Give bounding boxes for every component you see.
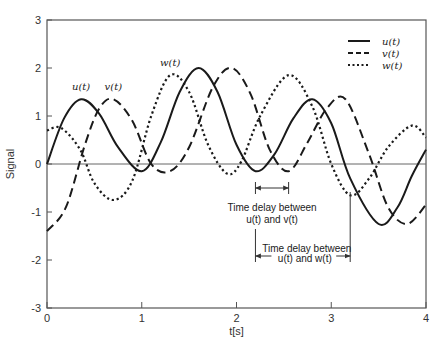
x-tick-label: 4: [423, 312, 429, 324]
y-tick-label: -2: [31, 254, 41, 266]
y-tick-label: 1: [35, 110, 41, 122]
x-tick-label: 2: [233, 312, 239, 324]
curve-label: w(t): [160, 57, 180, 68]
x-axis-label: t[s]: [229, 325, 244, 337]
y-tick-label: -1: [31, 206, 41, 218]
chart: -3-2-1012301234t[s]Signal u(t)v(t)w(t) T…: [0, 0, 445, 345]
legend-label: v(t): [382, 48, 400, 59]
y-tick-label: 0: [35, 158, 41, 170]
annotation-text: Time delay between: [227, 202, 316, 213]
annotation-text: u(t) and v(t): [246, 214, 298, 225]
curve-label: u(t): [72, 81, 90, 92]
axes: -3-2-1012301234t[s]Signal: [4, 14, 429, 337]
x-tick-label: 1: [139, 312, 145, 324]
y-tick-label: 2: [35, 62, 41, 74]
series-wt: [47, 74, 426, 200]
legend: u(t)v(t)w(t): [348, 36, 402, 71]
x-tick-label: 3: [328, 312, 334, 324]
legend-label: u(t): [382, 36, 400, 47]
y-tick-label: 3: [35, 14, 41, 26]
curve-label: v(t): [105, 81, 123, 92]
x-tick-label: 0: [44, 312, 50, 324]
y-tick-label: -3: [31, 302, 41, 314]
legend-label: w(t): [382, 60, 402, 71]
annotation-text: u(t) and w(t): [278, 253, 332, 264]
annotations: Time delay betweenu(t) and v(t)Time dela…: [227, 182, 351, 264]
y-axis-label: Signal: [4, 149, 16, 180]
